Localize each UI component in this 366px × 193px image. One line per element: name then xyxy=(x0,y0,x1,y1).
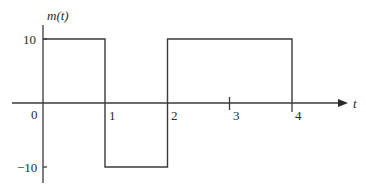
x-tick-label-1: 1 xyxy=(109,108,116,123)
x-tick-label-3: 3 xyxy=(233,108,240,123)
x-tick-label-2: 2 xyxy=(171,108,178,123)
x-axis-arrowhead-icon xyxy=(338,99,348,107)
x-axis-label: t xyxy=(353,96,357,111)
y-axis-label: m(t) xyxy=(47,8,69,23)
square-wave-chart: m(t) t 10 −10 0 1 2 3 4 xyxy=(0,0,366,193)
y-tick-label-10: 10 xyxy=(23,32,36,47)
y-tick-label-neg10: −10 xyxy=(17,160,37,175)
x-tick-label-0: 0 xyxy=(31,107,38,122)
x-tick-label-4: 4 xyxy=(295,108,302,123)
